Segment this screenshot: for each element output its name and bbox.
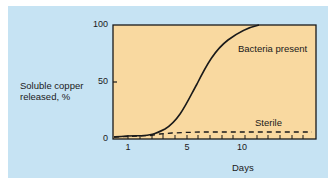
y-tick-label-100: 100	[84, 19, 108, 29]
y-tick-label-0: 0	[84, 133, 108, 143]
x-tick-label-5: 5	[177, 142, 197, 152]
y-axis-label-line2: released, %	[20, 91, 83, 102]
sterile-annotation: Sterile	[255, 117, 282, 128]
bacteria-present-annotation: Bacteria present	[238, 43, 307, 54]
y-axis-label-line1: Soluble copper	[20, 80, 83, 91]
y-axis-label: Soluble copper released, %	[20, 80, 83, 102]
x-tick-label-1: 1	[118, 142, 138, 152]
y-tick-label-50: 50	[84, 76, 108, 86]
x-tick-label-10: 10	[232, 142, 252, 152]
x-axis-label: Days	[232, 162, 254, 173]
